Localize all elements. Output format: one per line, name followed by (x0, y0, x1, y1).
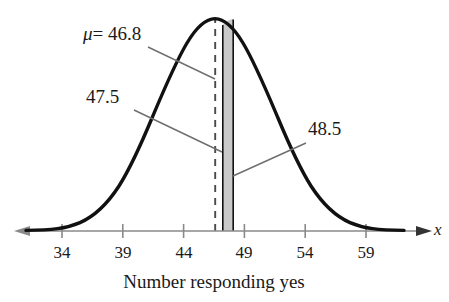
axis-arrow-right (416, 226, 432, 236)
mean-label: μ= 46.8 (83, 23, 141, 45)
normal-distribution-figure: μ= 46.8 47.5 48.5 x 34 39 44 49 54 59 Nu… (0, 0, 449, 302)
mu-symbol: μ (83, 23, 93, 44)
shaded-region (222, 19, 233, 231)
x-axis-caption: Number responding yes (123, 271, 305, 293)
tick-label-49: 49 (236, 243, 253, 263)
tick-label-39: 39 (115, 243, 132, 263)
tick-label-54: 54 (297, 243, 314, 263)
tick-label-44: 44 (176, 243, 193, 263)
lower-bound-label: 47.5 (86, 86, 119, 108)
upper-bound-label: 48.5 (308, 118, 341, 140)
tick-label-34: 34 (54, 243, 71, 263)
axis-variable-label: x (434, 220, 442, 240)
mean-value-text: = 46.8 (93, 23, 142, 44)
tick-label-59: 59 (358, 243, 375, 263)
